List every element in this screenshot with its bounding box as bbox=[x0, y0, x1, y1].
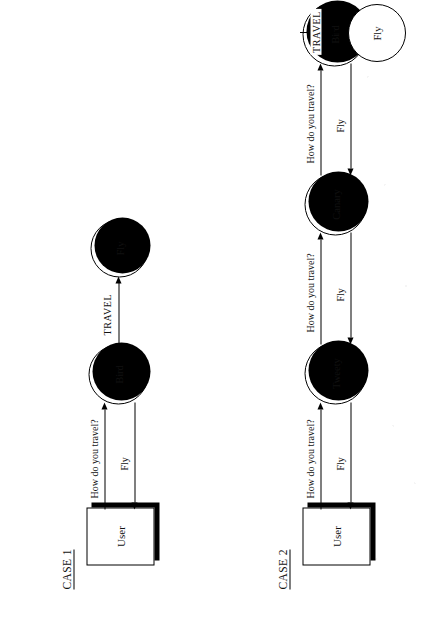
case1-edge-bird-to-fly-line bbox=[118, 282, 119, 344]
case2-edge-label-fly-1: Fly bbox=[334, 456, 345, 471]
case2-edge-tweety-to-user-line bbox=[350, 402, 351, 502]
case2-edge-user-to-tweety-arrowhead bbox=[317, 402, 323, 409]
case2-node-canary[interactable]: Canary bbox=[304, 173, 366, 235]
case1-node-bird[interactable]: Bird bbox=[88, 344, 148, 404]
case2-node-fly[interactable]: Fly bbox=[348, 4, 406, 62]
case2-node-canary-label: Canary bbox=[330, 189, 341, 219]
case2-edge-canary-to-tweety-line bbox=[350, 232, 351, 337]
case1-node-fly[interactable]: Fly bbox=[90, 219, 148, 277]
case2-edge-label-fly-2: Fly bbox=[334, 287, 345, 302]
case1-node-bird-label: Bird bbox=[113, 365, 124, 384]
case-2-travel-branch bbox=[0, 0, 427, 635]
case2-node-fly-label: Fly bbox=[371, 26, 382, 40]
case2-edge-tweety-to-canary-arrowhead bbox=[317, 232, 323, 239]
case1-edge-bird-to-user-arrowhead bbox=[131, 502, 137, 509]
case2-edge-label-fly-3: Fly bbox=[334, 118, 345, 133]
case2-edge-label-how-do-you-travel-1: How do you travel? bbox=[304, 418, 315, 499]
scanned-page: CASE 1 User How do you travel? Fly Bird … bbox=[0, 0, 427, 635]
case1-edge-bird-to-user-line bbox=[134, 402, 135, 502]
case2-edge-label-how-do-you-travel-3: How do you travel? bbox=[304, 83, 315, 164]
case2-node-tweety-label: Tweety bbox=[330, 358, 341, 389]
case1-node-fly-label: Fly bbox=[114, 241, 125, 255]
case2-edge-user-to-tweety-line bbox=[320, 409, 321, 509]
case1-edge-user-to-bird-arrowhead bbox=[101, 402, 107, 409]
case1-edge-label-how-do-you-travel: How do you travel? bbox=[88, 418, 99, 499]
case1-edge-label-travel: TRAVEL bbox=[101, 292, 112, 336]
case1-edge-label-fly: Fly bbox=[118, 456, 129, 471]
case1-edge-user-to-bird-line bbox=[104, 409, 105, 509]
case2-edge-tweety-to-user-arrowhead bbox=[347, 502, 353, 509]
case2-node-bird-label: Bird bbox=[329, 25, 340, 44]
case2-edge-tweety-to-canary-line bbox=[320, 239, 321, 344]
case2-edge-bird-to-canary-line bbox=[350, 63, 351, 168]
case2-edge-label-how-do-you-travel-2: How do you travel? bbox=[304, 252, 315, 333]
case2-node-tweety[interactable]: Tweety bbox=[304, 342, 366, 404]
case2-edge-canary-to-bird-line bbox=[320, 70, 321, 175]
